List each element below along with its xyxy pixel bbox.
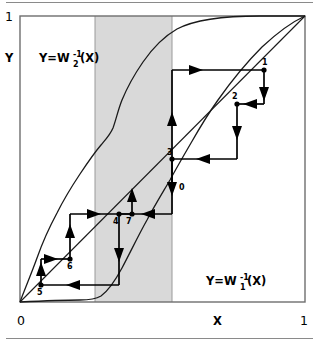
label-w2-subscript: 2	[73, 60, 79, 69]
point-label-0: 0	[179, 183, 185, 192]
arrowhead-down-2	[232, 126, 242, 140]
y-axis-label: Y	[4, 51, 14, 65]
point-label-5: 5	[37, 288, 43, 297]
x-tick-min-label: 0	[17, 313, 25, 328]
arrowhead-up-6	[65, 224, 75, 238]
marker-point-1	[261, 67, 266, 72]
arrowhead-left-2	[196, 154, 210, 164]
x-axis-label: X	[213, 314, 222, 328]
arrowhead-left-4	[66, 280, 80, 290]
marker-point-0	[169, 182, 174, 187]
point-label-7: 7	[126, 217, 132, 226]
point-label-3: 3	[167, 148, 173, 157]
arrowhead-right-0	[189, 65, 203, 75]
arrowhead-up-5	[36, 262, 46, 276]
shaded-band	[95, 16, 172, 302]
label-curve-w1: Y=W -1 1 (X)	[205, 273, 266, 292]
label-w2-prefix: Y=W	[38, 51, 70, 65]
arrowhead-right-5	[44, 254, 58, 264]
label-w1-prefix: Y=W	[205, 274, 237, 288]
marker-point-2	[234, 101, 239, 106]
marker-point-7	[129, 211, 134, 216]
arrowhead-down-1	[259, 87, 269, 101]
marker-point-6	[67, 256, 72, 261]
marker-point-3	[169, 156, 174, 161]
x-tick-max-label: 1	[300, 313, 308, 328]
y-tick-max-label: 1	[5, 9, 13, 24]
cobweb-diagram: 0 1 2 3 4 5 6 7 Y=W -1 2 (X) Y=W -1 1 (X…	[0, 0, 319, 346]
point-label-4: 4	[113, 217, 119, 226]
point-label-2: 2	[232, 92, 238, 101]
label-curve-w2: Y=W -1 2 (X)	[38, 50, 99, 69]
point-label-6: 6	[67, 262, 73, 271]
label-w1-suffix: (X)	[247, 274, 266, 288]
point-label-1: 1	[262, 58, 268, 67]
label-w2-suffix: (X)	[80, 51, 99, 65]
arrowhead-left-1	[243, 99, 257, 109]
marker-point-5	[38, 282, 43, 287]
marker-point-4	[116, 211, 121, 216]
label-w1-subscript: 1	[240, 283, 246, 292]
